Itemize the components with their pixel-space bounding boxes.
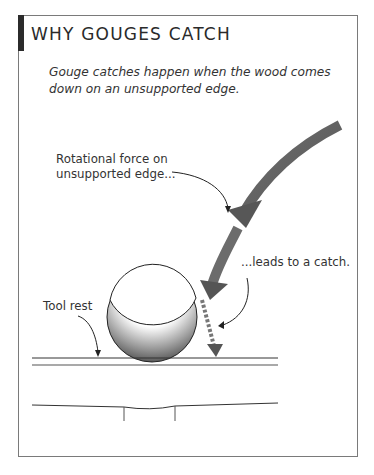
catch-path-arrow-icon <box>202 300 223 357</box>
gouge-catch-diagram <box>0 0 374 475</box>
leader-arrow-tool-rest <box>78 316 98 352</box>
leader-arrow-rotational <box>172 172 228 208</box>
gouge-circle-icon <box>107 264 197 362</box>
gouge-profile-icon <box>32 403 278 421</box>
force-arrow-icon <box>200 125 340 300</box>
